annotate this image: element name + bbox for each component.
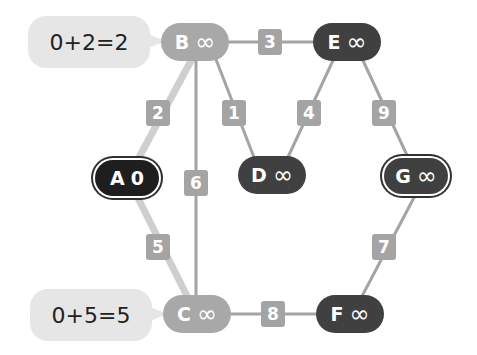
bubble-c-text: 0+5=5 <box>52 303 131 328</box>
edge-weight-g-f: 7 <box>372 234 396 260</box>
node-d[interactable]: D ∞ <box>238 156 306 194</box>
bubble-b-text: 0+2=2 <box>50 30 129 55</box>
edge-weight-e-g: 9 <box>372 100 396 126</box>
infinity-icon: ∞ <box>195 30 215 54</box>
edge-weight-b-c: 6 <box>184 170 208 196</box>
node-b-label: B <box>175 31 189 53</box>
edge-weight-e-d: 4 <box>297 100 321 126</box>
node-d-label: D <box>251 164 267 186</box>
node-c-label: C <box>177 303 191 325</box>
infinity-icon: ∞ <box>417 164 437 188</box>
distance-bubble-c: 0+5=5 <box>30 289 152 341</box>
node-b[interactable]: B ∞ <box>161 23 229 61</box>
node-e-label: E <box>328 31 341 53</box>
infinity-icon: ∞ <box>273 163 293 187</box>
edge-weight-a-c: 5 <box>146 234 170 260</box>
infinity-icon: ∞ <box>346 30 366 54</box>
node-a-value: 0 <box>131 167 144 189</box>
infinity-icon: ∞ <box>197 302 217 326</box>
node-a-label: A <box>110 167 125 189</box>
edge-weight-c-f: 8 <box>261 301 285 327</box>
edge-weight-b-d: 1 <box>222 100 246 126</box>
distance-bubble-b: 0+2=2 <box>28 16 150 68</box>
edge-weight-a-b: 2 <box>146 100 170 126</box>
node-f-label: F <box>331 303 344 325</box>
node-e[interactable]: E ∞ <box>313 23 381 61</box>
node-g-label: G <box>395 165 411 187</box>
node-g-goal[interactable]: G ∞ <box>384 158 448 194</box>
infinity-icon: ∞ <box>349 302 369 326</box>
node-f[interactable]: F ∞ <box>316 295 384 333</box>
node-a-start[interactable]: A 0 <box>95 160 159 196</box>
node-c[interactable]: C ∞ <box>163 295 231 333</box>
edge-weight-b-e: 3 <box>258 29 282 55</box>
